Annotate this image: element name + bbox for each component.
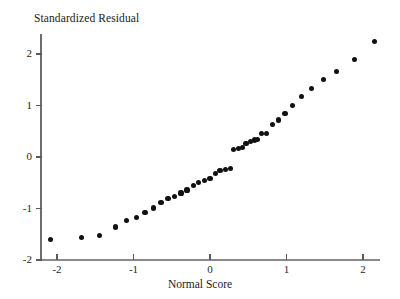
x-tick-label--1: -1 xyxy=(114,263,154,275)
data-point xyxy=(151,205,156,210)
data-point xyxy=(282,111,287,116)
data-point xyxy=(184,187,189,192)
y-tick-label-1: 1 xyxy=(4,99,32,111)
x-tick-label--2: -2 xyxy=(37,263,77,275)
data-point xyxy=(276,117,281,122)
data-point xyxy=(134,215,139,220)
x-tick-label-1: 1 xyxy=(267,263,307,275)
data-point xyxy=(334,69,339,74)
data-point xyxy=(352,57,357,62)
y-tick-label-0: 0 xyxy=(4,150,32,162)
data-point xyxy=(178,190,183,195)
page-title: Standardized Residual xyxy=(34,12,139,24)
data-point xyxy=(255,137,260,142)
plot-area xyxy=(40,34,380,260)
data-point xyxy=(48,237,53,242)
data-point xyxy=(207,176,212,181)
y-tick-label--1: -1 xyxy=(4,202,32,214)
y-tick-label-2: 2 xyxy=(4,47,32,59)
x-tick-label-0: 0 xyxy=(190,263,230,275)
data-point xyxy=(191,183,196,188)
data-point xyxy=(142,210,147,215)
data-point xyxy=(196,180,201,185)
x-tick-label-2: 2 xyxy=(343,263,383,275)
x-axis-label: Normal Score xyxy=(0,278,400,290)
data-point xyxy=(113,224,118,229)
y-tick-label--2: -2 xyxy=(4,253,32,265)
normal-probability-plot: Standardized Residual -2-1012 -2-1012 No… xyxy=(0,0,400,299)
data-point xyxy=(165,196,170,201)
